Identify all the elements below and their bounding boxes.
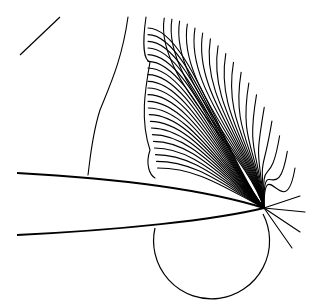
corner-isoline bbox=[20, 17, 60, 55]
body-upper-surface bbox=[17, 173, 264, 208]
fan-isoline bbox=[264, 136, 280, 208]
fan-isoline bbox=[264, 168, 295, 208]
contour-plot bbox=[0, 0, 313, 306]
left-isoline bbox=[88, 17, 128, 175]
fan-isoline bbox=[264, 151, 287, 208]
body-lower-surface bbox=[17, 208, 264, 235]
isolines bbox=[88, 17, 305, 248]
tip-isoline bbox=[264, 196, 300, 208]
tip-isoline bbox=[264, 208, 305, 212]
lower-circle-isoline bbox=[154, 214, 270, 299]
contour-figure bbox=[0, 0, 313, 306]
tip-isoline bbox=[264, 208, 300, 232]
